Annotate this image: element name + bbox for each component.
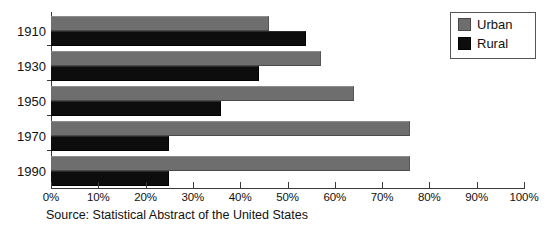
x-axis-tick [146, 182, 147, 189]
x-axis-tick-label: 60% [323, 191, 346, 203]
bar-rural-1990 [51, 171, 169, 186]
x-axis-tick-label: 50% [276, 191, 299, 203]
y-axis-label-1910: 1910 [8, 24, 46, 39]
source-note: Source: Statistical Abstract of the Unit… [46, 208, 308, 222]
x-axis-tick-label: 20% [134, 191, 157, 203]
x-axis-tick [477, 182, 478, 189]
legend-label-urban: Urban [477, 18, 512, 31]
x-axis-tick-label: 0% [43, 191, 59, 203]
x-axis-tick [335, 182, 336, 189]
bar-urban-1930 [51, 51, 321, 66]
y-axis-label-1930: 1930 [8, 59, 46, 74]
x-axis-tick [240, 182, 241, 189]
x-axis-tick-label: 10% [87, 191, 110, 203]
x-axis-tick-label: 100% [509, 191, 538, 203]
x-axis-tick [98, 182, 99, 189]
x-axis-tick [51, 182, 52, 189]
x-axis-tick [382, 182, 383, 189]
chart-legend: Urban Rural [450, 12, 536, 59]
legend-item-urban: Urban [458, 18, 512, 31]
legend-item-rural: Rural [458, 37, 508, 50]
x-axis-tick-label: 80% [418, 191, 441, 203]
x-axis-tick-label: 90% [465, 191, 488, 203]
x-axis-tick [193, 182, 194, 189]
urban-rural-population-bar-chart: 19101930195019701990 0%10%20%30%40%50%60… [0, 0, 560, 238]
bar-rural-1950 [51, 101, 221, 116]
x-axis-tick-label: 70% [371, 191, 394, 203]
bar-urban-1990 [51, 156, 410, 171]
x-axis-tick [524, 182, 525, 189]
legend-label-rural: Rural [477, 37, 508, 50]
legend-swatch-rural-icon [458, 37, 471, 50]
x-axis-tick [288, 182, 289, 189]
bar-urban-1970 [51, 121, 410, 136]
x-axis-tick-label: 40% [229, 191, 252, 203]
x-axis-tick-label: 30% [182, 191, 205, 203]
bar-rural-1930 [51, 66, 259, 81]
bar-urban-1910 [51, 16, 269, 31]
bar-rural-1910 [51, 31, 306, 46]
legend-swatch-urban-icon [458, 18, 471, 31]
x-axis-tick [429, 182, 430, 189]
bar-urban-1950 [51, 86, 354, 101]
bar-rural-1970 [51, 136, 169, 151]
y-axis-label-1990: 1990 [8, 164, 46, 179]
y-axis-label-1950: 1950 [8, 94, 46, 109]
y-axis-label-1970: 1970 [8, 129, 46, 144]
